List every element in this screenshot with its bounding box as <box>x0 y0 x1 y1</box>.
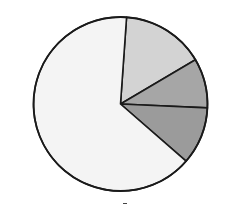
pie-chart <box>0 0 239 206</box>
stray-mark <box>123 203 127 204</box>
